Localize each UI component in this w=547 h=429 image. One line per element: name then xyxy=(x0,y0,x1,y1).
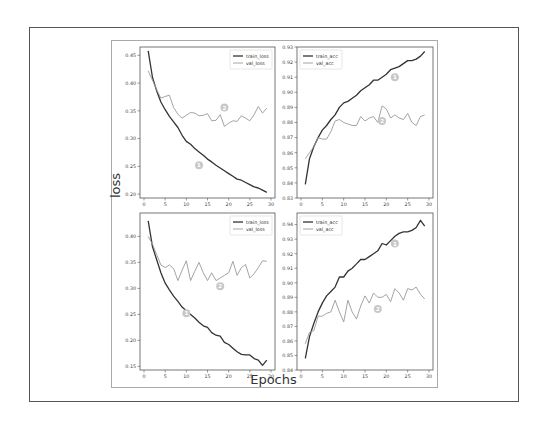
y-tick-label: 0.94 xyxy=(282,222,293,227)
y-tick-label: 0.87 xyxy=(282,135,293,140)
y-tick-label: 0.92 xyxy=(282,60,293,65)
x-tick-label: 0 xyxy=(142,202,145,207)
shared-y-axis-label: loss xyxy=(108,173,123,198)
shared-x-axis-label: Epochs xyxy=(0,372,547,387)
annotation-label: 2 xyxy=(376,306,380,312)
y-tick-label: 0.20 xyxy=(125,192,136,197)
annotation-label: 1 xyxy=(197,162,201,168)
subplot-bottom-right: 0.840.850.860.870.880.890.900.910.920.93… xyxy=(282,213,433,379)
y-tick-label: 0.35 xyxy=(125,109,136,114)
y-tick-label: 0.86 xyxy=(282,339,293,344)
x-tick-label: 25 xyxy=(247,202,253,207)
y-tick-label: 0.89 xyxy=(282,105,293,110)
y-tick-label: 0.89 xyxy=(282,295,293,300)
x-tick-label: 30 xyxy=(268,202,274,207)
y-tick-label: 0.20 xyxy=(125,338,136,343)
x-tick-label: 5 xyxy=(164,202,167,207)
subplot-bottom-left: 0.150.200.250.300.350.4005101520253012tr… xyxy=(125,213,275,379)
y-tick-label: 0.45 xyxy=(125,53,136,58)
y-tick-label: 0.83 xyxy=(282,196,293,201)
y-tick-label: 0.40 xyxy=(125,234,136,239)
axes-box xyxy=(297,213,433,370)
subplot-top-right: 0.830.840.850.860.870.880.890.900.910.92… xyxy=(282,45,433,207)
x-tick-label: 10 xyxy=(183,202,189,207)
y-tick-label: 0.30 xyxy=(125,286,136,291)
x-tick-label: 15 xyxy=(362,202,368,207)
y-tick-label: 0.85 xyxy=(282,166,293,171)
y-tick-label: 0.88 xyxy=(282,310,293,315)
y-tick-label: 0.92 xyxy=(282,252,293,257)
legend: train_accval_acc xyxy=(300,50,342,69)
y-tick-label: 0.93 xyxy=(282,45,293,50)
annotation-label: 2 xyxy=(218,283,222,289)
y-tick-label: 0.15 xyxy=(125,364,136,369)
y-tick-label: 0.84 xyxy=(282,181,293,186)
x-tick-label: 20 xyxy=(226,202,232,207)
annotation-label: 1 xyxy=(393,74,397,80)
y-tick-label: 0.87 xyxy=(282,324,293,329)
axes-box xyxy=(140,213,275,370)
x-tick-label: 0 xyxy=(299,202,302,207)
x-tick-label: 20 xyxy=(383,202,389,207)
x-tick-label: 15 xyxy=(204,202,210,207)
legend: train_lossval_loss xyxy=(230,50,272,69)
legend: train_lossval_loss xyxy=(230,216,272,235)
y-tick-label: 0.25 xyxy=(125,312,136,317)
y-tick-label: 0.90 xyxy=(282,90,293,95)
y-tick-label: 0.88 xyxy=(282,120,293,125)
y-tick-label: 0.85 xyxy=(282,353,293,358)
legend: train_accval_acc xyxy=(300,216,342,235)
y-tick-label: 0.93 xyxy=(282,237,293,242)
subplot-top-left: 0.200.250.300.350.400.4505101520253012tr… xyxy=(125,47,275,207)
y-tick-label: 0.90 xyxy=(282,281,293,286)
y-tick-label: 0.91 xyxy=(282,266,293,271)
x-tick-label: 30 xyxy=(426,202,432,207)
y-tick-label: 0.35 xyxy=(125,260,136,265)
y-tick-label: 0.86 xyxy=(282,151,293,156)
y-tick-label: 0.30 xyxy=(125,136,136,141)
axes-box xyxy=(140,47,275,198)
y-tick-label: 0.91 xyxy=(282,75,293,80)
annotation-label: 1 xyxy=(393,241,397,247)
annotation-label: 2 xyxy=(223,105,227,111)
y-tick-label: 0.25 xyxy=(125,164,136,169)
x-tick-label: 10 xyxy=(341,202,347,207)
annotation-label: 2 xyxy=(380,118,384,124)
x-tick-label: 25 xyxy=(405,202,411,207)
annotation-label: 1 xyxy=(184,310,188,316)
y-tick-label: 0.40 xyxy=(125,81,136,86)
figure-canvas: 0.200.250.300.350.400.4505101520253012tr… xyxy=(0,0,547,429)
x-tick-label: 5 xyxy=(321,202,324,207)
